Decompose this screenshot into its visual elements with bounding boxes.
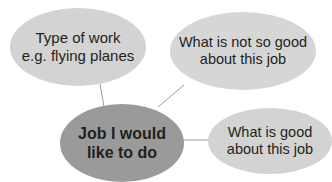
bubble-text-line: What is not so good [179,34,307,51]
bubble-text-line: like to do [78,143,166,162]
bubble-text-line: Type of work [22,29,135,47]
bubble-center-job: Job I would like to do [60,104,184,182]
connector-not-so-good [158,85,184,107]
bubble-text-line: Job I would [78,124,166,143]
bubble-text-line: e.g. flying planes [22,47,135,65]
connector-type-of-work [100,84,104,107]
bubble-text-line: What is good [227,124,313,141]
bubble-not-so-good: What is not so good about this job [170,12,316,90]
bubble-type-of-work: Type of work e.g. flying planes [10,8,146,86]
bubble-good: What is good about this job [208,108,332,174]
bubble-text-line: about this job [227,141,313,158]
bubble-text-line: about this job [179,51,307,68]
